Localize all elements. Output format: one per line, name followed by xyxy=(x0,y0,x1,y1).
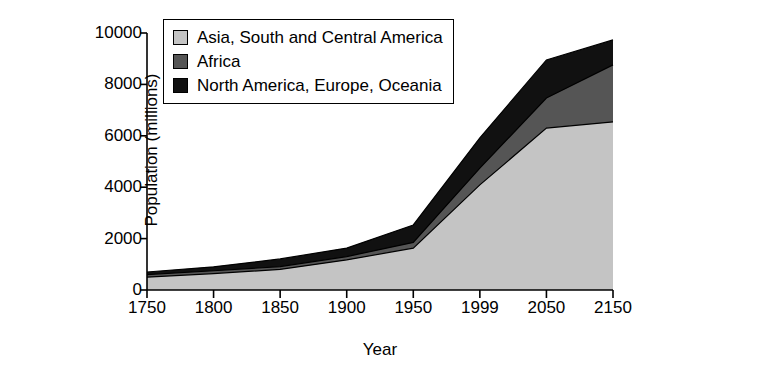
population-stacked-area-chart: Population (millions) 10000 8000 6000 40… xyxy=(0,0,773,377)
legend-swatch-africa xyxy=(173,54,188,69)
x-tick-2150: 2150 xyxy=(573,298,653,318)
legend-swatch-north-america xyxy=(173,78,188,93)
legend-item-north-america: North America, Europe, Oceania xyxy=(173,73,443,97)
legend-label-africa: Africa xyxy=(197,53,240,70)
legend-label-north-america: North America, Europe, Oceania xyxy=(197,77,442,94)
legend-item-africa: Africa xyxy=(173,49,443,73)
x-axis-title: Year xyxy=(147,340,613,360)
area-asia-south-central-america xyxy=(147,122,613,290)
legend-item-asia: Asia, South and Central America xyxy=(173,25,443,49)
legend: Asia, South and Central America Africa N… xyxy=(163,19,454,104)
legend-label-asia: Asia, South and Central America xyxy=(197,29,443,46)
legend-swatch-asia xyxy=(173,30,188,45)
